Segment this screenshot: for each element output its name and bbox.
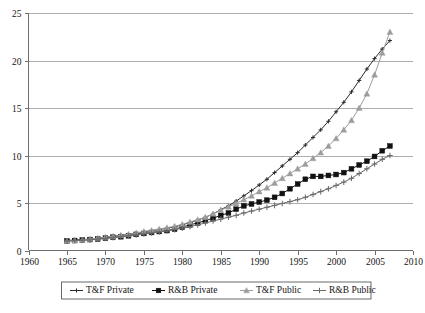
series-marker: [249, 208, 255, 214]
series-marker: [388, 144, 393, 149]
series-marker: [387, 153, 393, 159]
series-marker: [256, 206, 262, 212]
legend-label-0: T&F Private: [86, 285, 134, 295]
series-marker: [357, 163, 362, 168]
series-marker: [279, 175, 285, 180]
series-marker: [234, 207, 239, 212]
series-marker: [287, 171, 293, 176]
series-marker: [249, 193, 255, 198]
series-marker: [233, 213, 239, 219]
chart-legend: T&F PrivateR&B PrivateT&F PublicR&B Publ…: [62, 282, 376, 299]
series-marker: [326, 173, 331, 178]
series-marker: [249, 202, 254, 207]
x-tick-label-1980: 1980: [173, 257, 192, 267]
y-tick-label-15: 15: [12, 104, 22, 114]
legend-marker-square-icon: [156, 288, 161, 293]
series-marker: [364, 166, 370, 172]
series-line-1: [67, 146, 390, 241]
series-marker: [264, 185, 270, 190]
series-marker: [318, 189, 324, 195]
series-marker: [349, 176, 355, 182]
series-marker: [356, 105, 362, 110]
series-marker: [264, 204, 270, 210]
series-marker: [318, 174, 323, 179]
series-marker: [241, 210, 247, 216]
x-tick-label-1970: 1970: [96, 257, 115, 267]
series-marker: [333, 183, 339, 189]
series-marker: [356, 171, 362, 177]
x-axis-ticks: 1960196519701975198019851990199520002005…: [20, 251, 423, 268]
series-marker: [349, 166, 354, 171]
x-tick-label-2005: 2005: [366, 257, 385, 267]
series-marker: [272, 195, 277, 200]
series-marker: [295, 166, 301, 171]
series-marker: [295, 182, 300, 187]
x-tick-label-1960: 1960: [20, 257, 39, 267]
series-marker: [341, 179, 347, 185]
series-marker: [303, 177, 308, 182]
gridlines: [29, 14, 414, 204]
series-marker: [348, 117, 354, 122]
series-marker: [303, 195, 309, 201]
y-axis-ticks: 0510152025: [12, 9, 29, 257]
y-tick-label-0: 0: [17, 247, 22, 257]
series-marker: [279, 201, 285, 207]
series-marker: [326, 186, 332, 192]
series-marker: [379, 157, 385, 163]
series-marker: [310, 192, 316, 198]
series-marker: [302, 161, 308, 166]
series-marker: [311, 174, 316, 179]
x-tick-label-2000: 2000: [327, 257, 346, 267]
series-1: [65, 144, 393, 244]
x-tick-label-2010: 2010: [404, 257, 423, 267]
series-marker: [288, 186, 293, 191]
series-line-3: [67, 156, 390, 242]
series-marker: [379, 50, 385, 55]
y-tick-label-20: 20: [12, 57, 22, 67]
series-marker: [295, 197, 301, 203]
series-marker: [372, 154, 377, 159]
series-marker: [364, 159, 369, 164]
line-chart: 0510152025 19601965197019751980198519901…: [0, 0, 425, 313]
y-tick-label-25: 25: [12, 9, 22, 19]
legend-label-1: R&B Private: [168, 285, 217, 295]
series-marker: [372, 72, 378, 77]
legend-label-3: R&B Public: [329, 285, 376, 295]
series-line-2: [67, 32, 390, 241]
x-tick-label-1975: 1975: [135, 257, 154, 267]
series-marker: [264, 198, 269, 203]
series-marker: [280, 191, 285, 196]
series-marker: [256, 189, 262, 194]
y-tick-label-5: 5: [17, 199, 22, 209]
series-marker: [387, 29, 393, 34]
y-tick-label-10: 10: [12, 152, 22, 162]
series-3: [64, 153, 393, 244]
series-marker: [364, 91, 370, 96]
series-marker: [380, 148, 385, 153]
x-tick-label-1985: 1985: [212, 257, 231, 267]
series-marker: [257, 200, 262, 205]
series-marker: [341, 170, 346, 175]
x-tick-label-1995: 1995: [289, 257, 308, 267]
series-marker: [241, 203, 246, 208]
x-tick-label-1965: 1965: [58, 257, 77, 267]
series-marker: [272, 180, 278, 185]
series-marker: [334, 172, 339, 177]
series-marker: [372, 161, 378, 167]
chart-figure: 0510152025 19601965197019751980198519901…: [0, 0, 425, 313]
legend-label-2: T&F Public: [256, 285, 301, 295]
x-tick-label-1990: 1990: [250, 257, 269, 267]
